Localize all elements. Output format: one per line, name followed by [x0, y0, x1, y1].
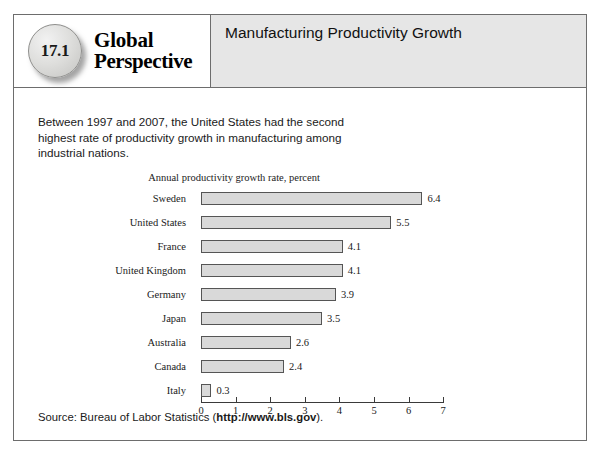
- badge-number: 17.1: [41, 41, 70, 61]
- x-axis-tick-label: 7: [441, 405, 446, 416]
- box-body: Between 1997 and 2007, the United States…: [14, 88, 586, 440]
- source-url: http://www.bls.gov: [216, 411, 316, 423]
- x-axis-tick-label: 6: [406, 405, 411, 416]
- bar: [201, 312, 322, 325]
- bar-value-label: 3.9: [341, 289, 354, 300]
- bar-category-label: Italy: [14, 385, 186, 396]
- bar-category-label: Sweden: [14, 193, 186, 204]
- source-note: Source: Bureau of Labor Statistics (http…: [38, 411, 323, 423]
- badge-word-perspective: Perspective: [94, 51, 192, 72]
- x-axis-tick: [305, 397, 306, 403]
- box-header: 17.1 Global Perspective Manufacturing Pr…: [14, 15, 586, 88]
- bar-category-label: France: [14, 241, 186, 252]
- bar: [201, 264, 343, 277]
- x-axis-tick: [236, 397, 237, 403]
- bar: [201, 360, 284, 373]
- bar: [201, 216, 391, 229]
- bar-value-label: 4.1: [348, 241, 361, 252]
- source-prefix: Source: Bureau of Labor Statistics (: [38, 411, 216, 423]
- bar-value-label: 5.5: [396, 217, 409, 228]
- x-axis-tick: [270, 397, 271, 403]
- bar-row: Sweden6.4: [14, 189, 586, 213]
- x-axis-line: [201, 402, 443, 403]
- bar-category-label: Japan: [14, 313, 186, 324]
- chart-plot-area: Sweden6.4United States5.5France4.1United…: [14, 189, 586, 413]
- badge-circle: 17.1: [28, 24, 82, 78]
- badge-wordmark: Global Perspective: [94, 30, 192, 72]
- bar: [201, 336, 291, 349]
- x-axis-tick: [201, 397, 202, 403]
- bar-chart: Annual productivity growth rate, percent…: [14, 172, 586, 417]
- badge-word-global: Global: [94, 30, 192, 51]
- source-suffix: ).: [316, 411, 323, 423]
- bar: [201, 240, 343, 253]
- intro-paragraph: Between 1997 and 2007, the United States…: [38, 114, 358, 161]
- x-axis-tick: [443, 397, 444, 403]
- bar-value-label: 3.5: [327, 313, 340, 324]
- bar-row: United States5.5: [14, 213, 586, 237]
- bar-category-label: Germany: [14, 289, 186, 300]
- badge-panel: 17.1 Global Perspective: [14, 15, 211, 87]
- chart-subtitle: Annual productivity growth rate, percent: [14, 172, 454, 183]
- bar-value-label: 2.4: [289, 361, 302, 372]
- x-axis-tick-label: 5: [371, 405, 376, 416]
- x-axis-tick-label: 4: [337, 405, 342, 416]
- page-title: Manufacturing Productivity Growth: [225, 24, 462, 42]
- title-panel: Manufacturing Productivity Growth: [211, 15, 586, 87]
- bar: [201, 192, 422, 205]
- bar-row: United Kingdom4.1: [14, 261, 586, 285]
- bar-category-label: Australia: [14, 337, 186, 348]
- bar-row: Canada2.4: [14, 357, 586, 381]
- bar-row: Australia2.6: [14, 333, 586, 357]
- x-axis-tick: [409, 397, 410, 403]
- bar-row: France4.1: [14, 237, 586, 261]
- bar-category-label: United Kingdom: [14, 265, 186, 276]
- bar-value-label: 2.6: [296, 337, 309, 348]
- bar-category-label: United States: [14, 217, 186, 228]
- bar-row: Japan3.5: [14, 309, 586, 333]
- bar-value-label: 4.1: [348, 265, 361, 276]
- bar-category-label: Canada: [14, 361, 186, 372]
- x-axis-tick: [374, 397, 375, 403]
- bar-value-label: 6.4: [427, 193, 440, 204]
- x-axis-tick: [339, 397, 340, 403]
- bar-row: Germany3.9: [14, 285, 586, 309]
- bar: [201, 384, 211, 397]
- global-perspective-box: 17.1 Global Perspective Manufacturing Pr…: [13, 14, 587, 441]
- bar: [201, 288, 336, 301]
- bar-value-label: 0.3: [216, 385, 229, 396]
